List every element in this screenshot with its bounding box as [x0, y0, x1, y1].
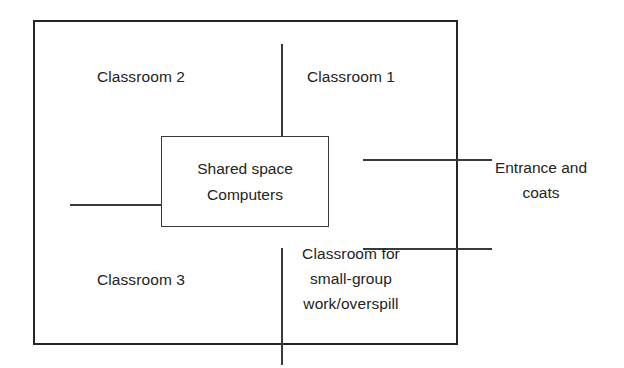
room-label-classroom-1: Classroom 1 — [252, 64, 450, 89]
room-label-shared-space: Shared space — [197, 156, 293, 182]
room-label-small-group-classroom: Classroom for small-group work/overspill — [252, 241, 450, 316]
room-label-computers: Computers — [207, 182, 283, 208]
floor-plan-diagram: Classroom 2 Classroom 1 Classroom 3 Clas… — [0, 0, 624, 368]
room-label-classroom-3: Classroom 3 — [42, 267, 240, 292]
annotation-entrance-and-coats: Entrance and coats — [466, 155, 616, 205]
room-shared-space: Shared space Computers — [161, 136, 329, 227]
room-label-classroom-2: Classroom 2 — [42, 64, 240, 89]
